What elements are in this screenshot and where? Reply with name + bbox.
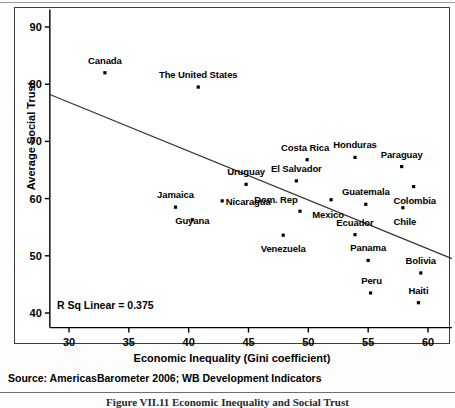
top-divider xyxy=(0,2,455,3)
point-label: Dom. Rep xyxy=(254,194,298,205)
y-tick-label-40: 40 xyxy=(30,307,42,319)
point-label: Bolivia xyxy=(406,254,436,265)
point-label: Costa Rica xyxy=(281,141,329,152)
point-label: Honduras xyxy=(333,139,377,150)
r-squared-annotation: R Sq Linear = 0.375 xyxy=(57,299,154,311)
x-tick-label-50: 50 xyxy=(302,336,314,348)
figure-caption: Figure VII.11 Economic Inequality and So… xyxy=(0,396,455,408)
point-label: The United States xyxy=(159,69,238,80)
x-tick-label-40: 40 xyxy=(183,336,195,348)
point-label: Paraguay xyxy=(381,148,423,159)
point-label: Uruguay xyxy=(227,166,265,177)
point-label: Venezuela xyxy=(261,243,306,254)
point-label: Haiti xyxy=(408,284,428,295)
point-label: Chile xyxy=(393,215,416,226)
point-label: Panama xyxy=(350,242,386,253)
source-note: Source: AmericasBarometer 2006; WB Devel… xyxy=(8,372,322,384)
y-tick-label-90: 90 xyxy=(30,21,42,33)
x-axis-title: Economic Inequality (Gini coefficient) xyxy=(14,352,450,364)
x-tick-label-30: 30 xyxy=(63,336,75,348)
x-tick-label-35: 35 xyxy=(123,336,135,348)
point-label: Colombia xyxy=(393,194,435,205)
point-label: Peru xyxy=(361,274,382,285)
y-tick-label-50: 50 xyxy=(30,250,42,262)
point-label: Guatemala xyxy=(342,186,390,197)
point-label: Ecuador xyxy=(336,216,373,227)
caption-divider xyxy=(0,392,455,393)
point-label: Jamaica xyxy=(157,189,194,200)
point-label: El Salvador xyxy=(271,162,322,173)
figure-root: CanadaThe United StatesHondurasCosta Ric… xyxy=(0,0,455,408)
x-tick-label-55: 55 xyxy=(362,336,374,348)
point-label: Canada xyxy=(88,54,122,65)
point-label: Guyana xyxy=(175,214,209,225)
y-axis-title: Average Social Trust xyxy=(25,51,37,221)
x-tick-label-45: 45 xyxy=(242,336,254,348)
x-tick-label-60: 60 xyxy=(422,336,434,348)
